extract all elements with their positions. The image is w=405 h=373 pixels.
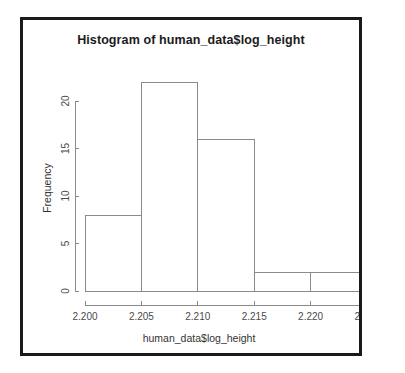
y-tick-label: 10	[60, 190, 71, 202]
x-axis	[85, 301, 359, 305]
x-tick-label: 2.205	[129, 311, 154, 322]
x-tick-label: 2.215	[242, 311, 267, 322]
y-tick-label: 0	[60, 288, 71, 294]
x-tick-label: 2.220	[298, 311, 323, 322]
y-tick-labels: 05101520	[60, 95, 71, 294]
page-background: Histogram of human_data$log_height 05101…	[0, 0, 405, 373]
x-tick-label: 2.210	[185, 311, 210, 322]
x-tick-label: 2.225	[354, 311, 359, 322]
histogram-bar	[198, 139, 254, 291]
y-axis-line	[75, 101, 79, 291]
bars-group	[85, 82, 359, 291]
y-tick-label: 5	[60, 240, 71, 246]
y-axis-title: Frequency	[41, 162, 53, 212]
x-axis-title: human_data$log_height	[143, 332, 256, 344]
histogram-bar	[141, 82, 197, 291]
histogram-bar	[254, 272, 310, 291]
x-tick-labels: 2.2002.2052.2102.2152.2202.225	[72, 311, 359, 322]
histogram-bar	[311, 272, 359, 291]
histogram-bar	[85, 215, 141, 291]
y-tick-label: 15	[60, 143, 71, 155]
plot-frame: Histogram of human_data$log_height 05101…	[20, 17, 362, 356]
histogram-svg: 05101520 2.2002.2052.2102.2152.2202.225 …	[23, 20, 359, 353]
x-tick-label: 2.200	[72, 311, 97, 322]
y-axis	[75, 101, 79, 291]
x-axis-line	[85, 301, 359, 305]
y-tick-label: 20	[60, 95, 71, 107]
plot-device: Histogram of human_data$log_height 05101…	[23, 20, 359, 353]
